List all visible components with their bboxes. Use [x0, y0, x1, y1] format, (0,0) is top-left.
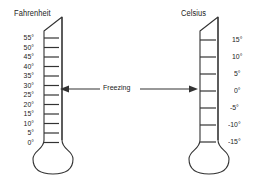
fahrenheit-label-5: 5° [5, 129, 34, 137]
fahrenheit-label-55: 55° [5, 34, 34, 42]
fahrenheit-label-0: 0° [5, 139, 34, 147]
celsius-heading: Celsius [181, 8, 206, 18]
fahrenheit-label-45: 45° [5, 53, 34, 61]
celsius-label-neg5: -5° [230, 104, 239, 112]
thermometer-comparison-diagram [0, 0, 254, 186]
fahrenheit-label-15: 15° [5, 110, 34, 118]
celsius-label-10: 10° [232, 53, 242, 61]
freezing-annotation-label: Freezing [103, 84, 130, 92]
fahrenheit-label-10: 10° [5, 120, 34, 128]
fahrenheit-heading: Fahrenheit [14, 8, 51, 18]
celsius-label-neg15: -15° [228, 138, 241, 146]
celsius-label-15: 15° [232, 36, 242, 44]
celsius-label-neg10: -10° [228, 121, 241, 129]
fahrenheit-label-30: 30° [5, 82, 34, 90]
fahrenheit-label-25: 25° [5, 91, 34, 99]
fahrenheit-label-40: 40° [5, 63, 34, 71]
celsius-label-0: 0° [234, 87, 241, 95]
fahrenheit-label-35: 35° [5, 72, 34, 80]
fahrenheit-label-50: 50° [5, 44, 34, 52]
celsius-label-5: 5° [234, 70, 241, 78]
fahrenheit-label-20: 20° [5, 101, 34, 109]
freezing-arrow-right-head [189, 86, 198, 93]
